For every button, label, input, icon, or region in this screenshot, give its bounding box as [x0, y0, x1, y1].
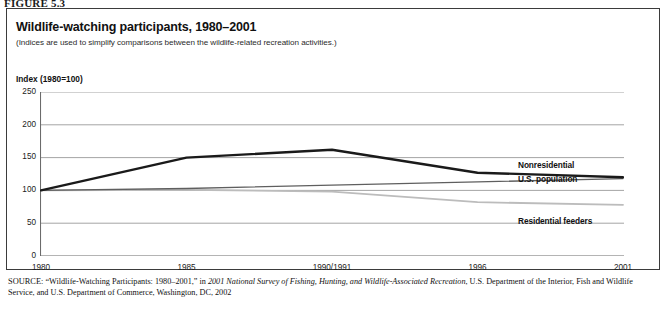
series-label-nonresidential: Nonresidential — [518, 160, 574, 170]
x-tick-label-1996: 1996 — [468, 263, 486, 272]
source-italic-title: 2001 National Survey of Fishing, Hunting… — [208, 277, 466, 286]
x-tick-label-1990-1991: 1990/1991 — [313, 263, 352, 272]
source-part1: “Wildlife-Watching Participants: 1980–20… — [43, 277, 208, 286]
y-tick-label-0: 0 — [10, 251, 36, 260]
source-note: SOURCE: “Wildlife-Watching Participants:… — [8, 276, 660, 299]
x-tick-label-2001: 2001 — [614, 263, 632, 272]
source-prefix: SOURCE: — [8, 277, 43, 286]
y-tick-label-150: 150 — [10, 152, 36, 161]
series-label-residential-feeders: Residential feeders — [518, 216, 592, 226]
figure-container: FIGURE 5.3 Wildlife-watching participant… — [0, 0, 668, 325]
y-tick-label-50: 50 — [10, 218, 36, 227]
x-tick-label-1985: 1985 — [177, 263, 195, 272]
y-axis-label: Index (1980=100) — [16, 74, 83, 84]
y-tick-label-250: 250 — [10, 87, 36, 96]
series-line-nonresidential — [41, 150, 623, 191]
chart-title: Wildlife-watching participants, 1980–200… — [16, 20, 256, 34]
y-tick-label-100: 100 — [10, 185, 36, 194]
series-label-u-s-population: U.S. population — [518, 174, 577, 184]
series-line-residential-feeders — [41, 190, 623, 205]
x-tick-label-1980: 1980 — [32, 263, 50, 272]
y-tick-label-200: 200 — [10, 120, 36, 129]
chart-subtitle: (Indices are used to simplify comparison… — [16, 38, 337, 47]
figure-label: FIGURE 5.3 — [4, 0, 65, 8]
